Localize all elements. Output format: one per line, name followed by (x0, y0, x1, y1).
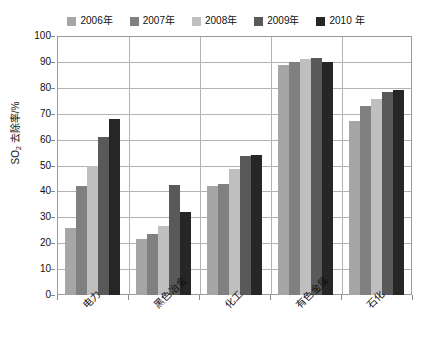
y-axis-title-rest: 去除率/% (10, 102, 21, 146)
legend-swatch-icon (192, 17, 201, 26)
y-axis-title-subscript: 2 (15, 146, 22, 150)
gridline-vertical (200, 37, 201, 294)
y-axis-tick-mark (51, 114, 55, 115)
y-axis-tick-mark (51, 62, 55, 63)
legend-item-2009年[interactable]: 2009年 (254, 16, 299, 26)
y-axis-tick-label: 100 (5, 31, 51, 41)
gridline-horizontal (58, 191, 411, 192)
bar-chart: 2006年2007年2008年2009年2010 年 1009080706050… (0, 0, 432, 363)
plot-area (57, 36, 412, 295)
gridline-horizontal (58, 217, 411, 218)
y-axis-tick-mark (51, 269, 55, 270)
legend-label: 2009年 (267, 16, 299, 26)
y-axis-tick-mark (51, 191, 55, 192)
x-axis-tick-mark (199, 295, 200, 300)
y-axis-title-base: SO (10, 150, 21, 164)
x-axis-tick-mark (412, 295, 413, 300)
legend-label: 2007年 (143, 16, 175, 26)
y-axis-tick-mark (51, 243, 55, 244)
x-axis-tick-mark (128, 295, 129, 300)
legend-item-2008年[interactable]: 2008年 (192, 16, 237, 26)
y-axis-tick-mark (51, 166, 55, 167)
y-axis-tick-mark (51, 295, 55, 296)
y-axis-title: SO2 去除率/% (10, 73, 22, 193)
gridline-horizontal (58, 88, 411, 89)
y-axis-tick-mark (51, 217, 55, 218)
legend-item-2010年[interactable]: 2010 年 (316, 16, 364, 26)
legend-item-2006年[interactable]: 2006年 (67, 16, 112, 26)
legend-label: 2006年 (80, 16, 112, 26)
y-axis-tick-mark (51, 140, 55, 141)
y-axis: 1009080706050403020100 (0, 36, 51, 295)
gridline-horizontal (58, 243, 411, 244)
y-axis-tick-mark (51, 36, 55, 37)
gridline-vertical (129, 37, 130, 294)
legend-swatch-icon (254, 17, 263, 26)
gridline-horizontal (58, 269, 411, 270)
legend-swatch-icon (130, 17, 139, 26)
y-axis-tick-label: 20 (5, 238, 51, 248)
gridline-horizontal (58, 140, 411, 141)
y-axis-tick-label: 90 (5, 57, 51, 67)
gridline-horizontal (58, 62, 411, 63)
legend-item-2007年[interactable]: 2007年 (130, 16, 175, 26)
gridline-vertical (342, 37, 343, 294)
legend-label: 2010 年 (329, 16, 364, 26)
legend-swatch-icon (316, 17, 325, 26)
chart-legend: 2006年2007年2008年2009年2010 年 (0, 12, 432, 30)
gridline-horizontal (58, 166, 411, 167)
x-axis-tick-mark (341, 295, 342, 300)
y-axis-tick-mark (51, 88, 55, 89)
gridline-horizontal (58, 114, 411, 115)
y-axis-tick-label: 30 (5, 212, 51, 222)
y-axis-tick-label: 0 (5, 290, 51, 300)
x-axis-tick-mark (57, 295, 58, 300)
x-axis-tick-mark (270, 295, 271, 300)
legend-swatch-icon (67, 17, 76, 26)
gridline-vertical (271, 37, 272, 294)
y-axis-tick-label: 10 (5, 264, 51, 274)
legend-label: 2008年 (205, 16, 237, 26)
